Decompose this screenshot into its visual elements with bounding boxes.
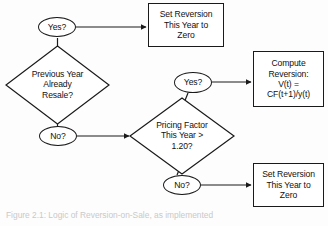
branch-label-pricing-yes[interactable]: Yes? (174, 72, 212, 93)
flowchart-figure: Previous Year Already Resale? Yes? Set R… (0, 0, 328, 226)
branch-label-pricing-no-text: No? (164, 181, 200, 190)
branch-label-previous-year-yes[interactable]: Yes? (38, 17, 76, 37)
branch-label-previous-year-no[interactable]: No? (39, 126, 77, 146)
process-compute-reversion[interactable]: Compute Reversion: V(t) = CF(t+1)/y(t) (253, 51, 324, 107)
decision-pricing-factor[interactable]: Pricing Factor This Year > 1.20? (129, 97, 235, 175)
figure-caption: Figure 2.1: Logic of Reversion-on-Sale, … (6, 210, 306, 220)
branch-label-previous-year-no-text: No? (40, 132, 76, 141)
process-set-reversion-zero-top-label: Set Reversion This Year to Zero (149, 9, 223, 40)
decision-previous-year-already-resale[interactable]: Previous Year Already Resale? (5, 45, 110, 125)
branch-label-previous-year-yes-text: Yes? (39, 23, 75, 32)
process-set-reversion-zero-top[interactable]: Set Reversion This Year to Zero (148, 3, 224, 47)
branch-label-pricing-yes-text: Yes? (175, 78, 211, 87)
process-set-reversion-zero-bottom[interactable]: Set Reversion This Year to Zero (253, 163, 324, 207)
decision-pricing-factor-label: Pricing Factor This Year > 1.20? (129, 120, 235, 151)
branch-label-pricing-no[interactable]: No? (163, 175, 201, 195)
process-set-reversion-zero-bottom-label: Set Reversion This Year to Zero (254, 169, 323, 200)
process-compute-reversion-label: Compute Reversion: V(t) = CF(t+1)/y(t) (254, 58, 323, 100)
decision-previous-year-label: Previous Year Already Resale? (5, 69, 110, 100)
